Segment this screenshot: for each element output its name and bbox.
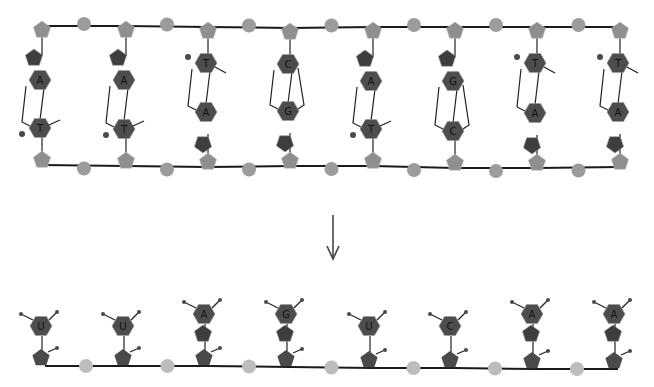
bottom-base-label: A	[203, 107, 210, 118]
top-phosphate	[160, 18, 174, 32]
hydrogen-bond	[353, 87, 361, 127]
sugar-oh	[130, 348, 139, 352]
purine-ring	[276, 136, 293, 152]
rna-base-label: G	[282, 309, 290, 320]
methyl-dot	[597, 54, 603, 60]
sugar-oh	[621, 351, 630, 355]
side-dot	[383, 310, 387, 314]
side-group	[594, 302, 606, 308]
side-group	[540, 300, 548, 308]
sugar-oh	[48, 348, 57, 352]
rna-phosphate	[79, 359, 93, 373]
hydrogen-bond	[435, 87, 443, 129]
top-base-label: T	[614, 58, 622, 69]
dna-double-strand: ATATTACGATGCTATA	[0, 0, 654, 200]
bottom-base-label: A	[532, 108, 539, 119]
side-group	[544, 67, 555, 73]
side-group	[103, 314, 115, 320]
side-group	[266, 302, 278, 308]
top-base-label: C	[285, 59, 292, 70]
side-dot	[137, 310, 141, 314]
hydrogen-bond	[600, 69, 608, 110]
bottom-sugar	[281, 152, 298, 168]
top-base-label: T	[531, 58, 539, 69]
rna-base-label: U	[119, 321, 126, 332]
bottom-phosphate	[242, 163, 256, 177]
rna-sugar	[277, 350, 294, 366]
oh-dot	[383, 348, 387, 352]
bottom-sugar	[117, 152, 134, 168]
rna-phosphate	[488, 362, 502, 376]
side-dot	[510, 300, 514, 304]
side-group	[430, 314, 442, 320]
side-dot	[464, 310, 468, 314]
side-dot	[592, 300, 596, 304]
rna-base	[112, 317, 134, 336]
bottom-base-label: A	[615, 107, 622, 118]
side-dot	[264, 300, 268, 304]
purine-ring	[25, 49, 42, 65]
bottom-sugar	[611, 153, 628, 169]
bottom-base-label: C	[450, 126, 457, 137]
rna-base	[603, 305, 625, 324]
side-group	[349, 314, 361, 320]
purine-ring	[276, 325, 293, 341]
bottom-sugar	[364, 152, 381, 168]
rna-phosphate	[407, 361, 421, 375]
rna-base	[275, 305, 297, 324]
rna-nucleotide: U	[19, 310, 59, 365]
rna-phosphate	[242, 360, 256, 374]
side-group	[184, 302, 196, 308]
sugar-oh	[376, 350, 385, 354]
top-phosphate	[242, 19, 256, 33]
side-group	[627, 67, 638, 73]
side-group	[380, 121, 391, 126]
rna-base-label: A	[529, 309, 536, 320]
top-sugar	[281, 23, 298, 39]
bottom-phosphate	[160, 163, 174, 177]
bottom-sugar	[33, 151, 50, 167]
sugar-oh	[457, 350, 466, 354]
side-group	[294, 300, 302, 308]
hydrogen-bond	[371, 89, 375, 121]
rna-sugar	[523, 352, 540, 368]
oh-dot	[137, 346, 141, 350]
rna-base	[358, 317, 380, 336]
top-base-label: A	[121, 75, 128, 86]
rna-base-label: A	[201, 309, 208, 320]
base-pair: CG	[270, 23, 304, 168]
base-pair: TA	[514, 22, 555, 170]
bottom-base-label: T	[36, 123, 44, 134]
hydrogen-bond	[535, 71, 539, 105]
rna-nucleotide: A	[510, 298, 550, 368]
methyl-dot	[103, 132, 109, 138]
hydrogen-bond	[288, 72, 292, 103]
base-pair: TA	[597, 22, 638, 169]
base-pair: AT	[19, 21, 60, 167]
methyl-dot	[350, 132, 356, 138]
oh-dot	[55, 346, 59, 350]
top-sugar	[199, 22, 216, 38]
hydrogen-bond	[206, 71, 210, 104]
side-group	[377, 312, 385, 320]
bottom-sugar	[199, 153, 216, 169]
rna-nucleotide: U	[101, 310, 141, 365]
oh-dot	[300, 347, 304, 351]
rna-base	[30, 317, 52, 336]
base-pair: GC	[435, 22, 469, 170]
rna-sugar	[195, 349, 212, 365]
side-group	[622, 300, 630, 308]
bottom-phosphate	[572, 164, 586, 178]
oh-dot	[464, 348, 468, 352]
purine-ring	[522, 325, 539, 341]
bottom-base-label: T	[120, 124, 128, 135]
bottom-sugar	[446, 154, 463, 170]
rna-sugar	[32, 349, 49, 365]
side-dot	[101, 312, 105, 316]
rna-base	[439, 317, 461, 336]
down-arrow-icon	[327, 215, 339, 259]
hydrogen-bond	[463, 85, 469, 129]
side-dot	[628, 298, 632, 302]
purine-ring	[606, 137, 623, 153]
top-sugar	[611, 22, 628, 38]
